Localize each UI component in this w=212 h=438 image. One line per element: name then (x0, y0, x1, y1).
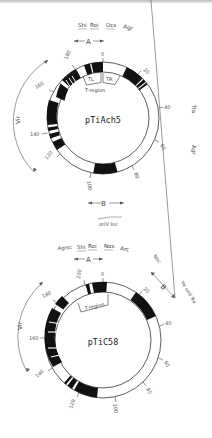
tick-140: 140 (30, 131, 40, 137)
tr-label: TR (105, 76, 113, 82)
gene-label-agr: Agr (122, 23, 134, 32)
gene-label-arc: Arc (120, 245, 130, 252)
tick-60: 60 (163, 360, 171, 369)
tick-20: 20 (142, 285, 151, 294)
tick-0: 0 (101, 51, 104, 57)
tick-40: 40 (164, 104, 170, 110)
gene-label-roi: Roi (88, 243, 97, 249)
tick-160: 160 (29, 335, 39, 341)
tick-100: 100 (86, 180, 94, 190)
right-label-noc: Noc (152, 253, 163, 264)
region-a-label: A (86, 38, 91, 46)
tick-140: 140 (34, 368, 45, 379)
tl-label: TL (87, 76, 94, 82)
t-region-label: T-region (83, 301, 105, 312)
vir-label: Vir (16, 321, 23, 330)
tick-160: 160 (34, 80, 45, 90)
gene-label-shi: Shi (78, 22, 87, 28)
right-label-inc-oriv-tra: Inc oriV Tra (180, 280, 197, 304)
plasmid-name-ptiach5: pTiAch5 (85, 115, 121, 125)
tick-120: 120 (67, 398, 76, 409)
tick-180: 180 (41, 289, 52, 298)
tick-40: 40 (165, 320, 171, 326)
gene-label-roi: Roi (90, 22, 99, 28)
tick-180: 180 (62, 49, 71, 60)
plasmid-maps-figure: Shi Roi Ocs Agr A (0, 0, 212, 438)
gene-label-ocs: Ocs (106, 22, 116, 28)
plasmid-name-ptic58: pTiC58 (88, 337, 119, 347)
tick-120: 120 (43, 149, 54, 160)
tick-20: 20 (142, 66, 151, 75)
tick-200: 200 (75, 269, 83, 279)
right-label-agr: Agr (190, 145, 197, 155)
tick-0: 0 (101, 271, 104, 277)
region-b-label: B (101, 200, 106, 208)
bottom-label-oriv-inc: oriV Inc (99, 221, 118, 227)
tick-80: 80 (133, 171, 141, 179)
t-region-label: T-region (84, 87, 105, 94)
region-b-label: B (159, 283, 168, 292)
tick-80: 80 (145, 387, 153, 396)
vir-label: Vir (14, 115, 21, 124)
gene-label-shi: Shi (77, 244, 86, 250)
right-label-tra: Tra (191, 104, 197, 113)
plasmid-map-ptiach5: Shi Roi Ocs Agr A (13, 22, 197, 227)
region-a-label: A (86, 256, 91, 264)
gene-label-nos: Nos (104, 243, 114, 249)
gene-label-agrsc: Agrsc (58, 244, 73, 252)
tick-100: 100 (112, 403, 120, 413)
